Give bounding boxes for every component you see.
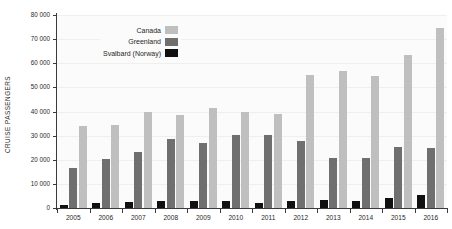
x-tick-mark <box>382 209 383 213</box>
y-tick-0: 0 <box>0 208 57 209</box>
bar-greenland-2015[interactable] <box>394 147 402 208</box>
legend-label-canada: Canada <box>136 27 161 34</box>
bar-svalbard-2010[interactable] <box>222 201 230 208</box>
x-axis-label-2008: 2008 <box>155 214 188 221</box>
bar-svalbard-2007[interactable] <box>125 202 133 208</box>
bar-greenland-2014[interactable] <box>362 158 370 208</box>
y-tick-label: 50 000 <box>31 82 50 91</box>
gridline <box>57 15 447 16</box>
y-tick-30000: 30 000 <box>0 136 57 137</box>
y-tick-label: 70 000 <box>31 34 50 43</box>
gridline <box>57 112 447 113</box>
bar-canada-2014[interactable] <box>371 76 379 208</box>
legend-item-svalbard[interactable]: Svalbard (Norway) <box>103 48 178 58</box>
x-tick-mark <box>285 209 286 213</box>
bar-svalbard-2008[interactable] <box>157 201 165 208</box>
bar-greenland-2012[interactable] <box>297 141 305 208</box>
bar-svalbard-2012[interactable] <box>287 201 295 208</box>
x-tick-mark <box>122 209 123 213</box>
bar-svalbard-2009[interactable] <box>190 201 198 208</box>
bar-greenland-2008[interactable] <box>167 139 175 208</box>
x-axis-label-2005: 2005 <box>57 214 90 221</box>
bar-greenland-2007[interactable] <box>134 152 142 208</box>
y-tick-20000: 20 000 <box>0 160 57 161</box>
bar-canada-2010[interactable] <box>241 112 249 209</box>
bar-canada-2009[interactable] <box>209 108 217 208</box>
bar-svalbard-2013[interactable] <box>320 200 328 208</box>
x-tick-mark <box>187 209 188 213</box>
gridline <box>57 63 447 64</box>
x-tick-mark <box>317 209 318 213</box>
legend-item-greenland[interactable]: Greenland <box>103 37 178 47</box>
legend-swatch-greenland <box>165 38 178 46</box>
x-axis-label-2007: 2007 <box>122 214 155 221</box>
y-tick-40000: 40 000 <box>0 112 57 113</box>
bar-greenland-2010[interactable] <box>232 135 240 208</box>
x-tick-mark <box>220 209 221 213</box>
x-axis-label-2010: 2010 <box>220 214 253 221</box>
bar-greenland-2006[interactable] <box>102 159 110 208</box>
bar-canada-2011[interactable] <box>274 114 282 208</box>
x-axis-label-2011: 2011 <box>252 214 285 221</box>
bar-svalbard-2011[interactable] <box>255 203 263 208</box>
bar-canada-2015[interactable] <box>404 55 412 208</box>
bar-svalbard-2015[interactable] <box>385 198 393 208</box>
x-tick-mark <box>252 209 253 213</box>
y-tick-70000: 70 000 <box>0 39 57 40</box>
x-axis-label-2015: 2015 <box>382 214 415 221</box>
bar-svalbard-2016[interactable] <box>417 195 425 208</box>
y-tick-label: 0 <box>46 203 50 212</box>
bar-canada-2008[interactable] <box>176 115 184 208</box>
y-tick-50000: 50 000 <box>0 87 57 88</box>
gridline <box>57 87 447 88</box>
cruise-passengers-bar-chart: CRUISE PASSENGERS 010 00020 00030 00040 … <box>0 0 452 229</box>
x-axis-label-2006: 2006 <box>90 214 123 221</box>
y-axis-line <box>56 13 57 210</box>
x-axis-label-2009: 2009 <box>187 214 220 221</box>
bar-canada-2007[interactable] <box>144 112 152 208</box>
legend-swatch-canada <box>165 26 178 34</box>
y-tick-label: 40 000 <box>31 107 50 116</box>
legend-item-canada[interactable]: Canada <box>103 25 178 35</box>
bar-svalbard-2005[interactable] <box>60 205 68 208</box>
bar-canada-2016[interactable] <box>436 28 444 208</box>
x-axis-label-2014: 2014 <box>350 214 383 221</box>
bar-svalbard-2014[interactable] <box>352 201 360 208</box>
y-tick-label: 60 000 <box>31 58 50 67</box>
bar-greenland-2009[interactable] <box>199 143 207 208</box>
y-tick-80000: 80 000 <box>0 15 57 16</box>
bar-svalbard-2006[interactable] <box>92 203 100 208</box>
x-axis-label-2012: 2012 <box>285 214 318 221</box>
legend: Canada Greenland Svalbard (Norway) <box>100 23 181 60</box>
legend-label-greenland: Greenland <box>128 38 161 45</box>
bar-greenland-2016[interactable] <box>427 148 435 208</box>
bar-greenland-2011[interactable] <box>264 135 272 208</box>
x-axis-label-2013: 2013 <box>317 214 350 221</box>
y-tick-60000: 60 000 <box>0 63 57 64</box>
y-tick-10000: 10 000 <box>0 184 57 185</box>
bar-canada-2012[interactable] <box>306 75 314 208</box>
x-tick-mark <box>415 209 416 213</box>
y-tick-label: 20 000 <box>31 155 50 164</box>
x-tick-mark <box>155 209 156 213</box>
bar-greenland-2005[interactable] <box>69 168 77 208</box>
y-tick-label: 80 000 <box>31 10 50 19</box>
y-tick-label: 30 000 <box>31 131 50 140</box>
legend-label-svalbard: Svalbard (Norway) <box>103 50 161 57</box>
x-tick-mark <box>447 209 448 213</box>
legend-swatch-svalbard <box>165 49 178 57</box>
y-tick-label: 10 000 <box>31 179 50 188</box>
bar-canada-2013[interactable] <box>339 71 347 208</box>
bar-canada-2005[interactable] <box>79 126 87 208</box>
x-tick-mark <box>57 209 58 213</box>
bar-greenland-2013[interactable] <box>329 158 337 208</box>
x-tick-mark <box>350 209 351 213</box>
bar-canada-2006[interactable] <box>111 125 119 208</box>
y-axis-title: CRUISE PASSENGERS <box>0 0 14 229</box>
x-axis-label-2016: 2016 <box>415 214 448 221</box>
x-tick-mark <box>90 209 91 213</box>
